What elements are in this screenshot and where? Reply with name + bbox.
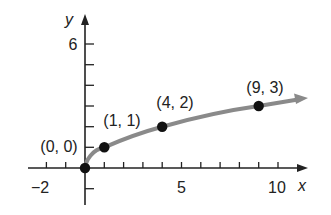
point-label-1-1: (1, 1) [103, 112, 140, 129]
x-axis: −2 5 10 x [28, 162, 308, 196]
x-tick-label-neg2: −2 [31, 179, 49, 196]
point-label-0-0: (0, 0) [40, 138, 77, 155]
sqrt-curve [85, 94, 308, 169]
x-tick-label-5: 5 [177, 179, 186, 196]
x-tick-label-10: 10 [268, 179, 286, 196]
x-axis-arrow-icon [297, 164, 308, 172]
point-0-0 [80, 163, 90, 173]
point-label-9-3: (9, 3) [246, 79, 283, 96]
point-4-2 [157, 122, 167, 132]
point-9-3 [254, 101, 264, 111]
y-axis-label: y [64, 11, 74, 28]
y-axis: 6 y [64, 11, 94, 205]
curve-arrow-icon [294, 94, 308, 105]
y-tick-label-6: 6 [69, 36, 78, 53]
y-axis-arrow-icon [81, 14, 89, 25]
x-axis-label: x [297, 177, 307, 194]
sqrt-graph: −2 5 10 x 6 y (0, 0) (1, 1) (4, 2 [0, 0, 331, 215]
point-1-1 [99, 142, 109, 152]
point-label-4-2: (4, 2) [156, 94, 193, 111]
